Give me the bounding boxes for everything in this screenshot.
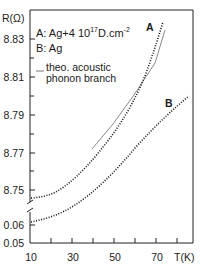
legend-a-text: A: Ag+4 10 [36, 27, 90, 39]
legend-theory-line2: phonon branch [46, 73, 116, 84]
axis-break-icon [27, 200, 33, 212]
x-tick-label: 50 [103, 252, 127, 263]
y-tick-label: 8.83 [0, 34, 24, 45]
legend-a-unit-exponent: -2 [124, 26, 130, 33]
curve-label-a: A [146, 22, 154, 33]
legend-a-unit: D.cm [98, 27, 124, 39]
y-tick-label: 0.06 [0, 220, 24, 231]
legend-a-exponent: 17 [90, 26, 98, 33]
x-tick-label: 70 [145, 252, 169, 263]
chart-canvas [0, 0, 200, 269]
y-tick-label: 8.79 [0, 110, 24, 121]
curve-label-b: B [165, 98, 173, 109]
y-tick-label: 0.05 [0, 238, 24, 249]
y-tick-label: 8.77 [0, 148, 24, 159]
legend-b: B: Ag [36, 43, 62, 54]
y-axis-label: R(Ω) [2, 13, 24, 24]
series-b-curve [31, 96, 189, 222]
x-tick-label: 30 [61, 252, 85, 263]
x-axis-label: T(K) [174, 252, 194, 263]
x-tick-label: 10 [19, 252, 43, 263]
x-axis-ticks [51, 238, 177, 243]
y-tick-label: 8.81 [0, 72, 24, 83]
legend-a: A: Ag+4 1017D.cm-2 [36, 24, 130, 39]
y-tick-label: 8.75 [0, 185, 24, 196]
